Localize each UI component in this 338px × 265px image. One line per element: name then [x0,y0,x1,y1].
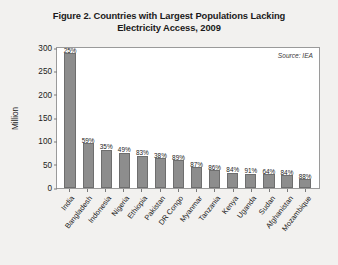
x-axis-label-slot: Tanzania [206,192,224,258]
bar[interactable]: 64% [263,174,274,188]
bar-value-label: 91% [244,167,257,174]
bar[interactable]: 35% [101,150,112,188]
bar[interactable]: 91% [245,174,256,188]
bar-value-label: 88% [299,173,312,180]
y-axis-tick-label: 150 [38,114,57,123]
bar[interactable]: 84% [281,175,292,188]
bar-value-label: 49% [118,146,131,153]
bar-slot: 59% [79,48,97,188]
bar[interactable]: 88% [299,179,310,188]
bar-slot: 35% [97,48,115,188]
bar-value-label: 38% [154,152,167,159]
x-axis-label-slot: Kenya [224,192,242,258]
y-axis-tick-label: 50 [43,160,57,169]
bar[interactable]: 49% [119,153,130,188]
bar[interactable]: 38% [155,158,166,188]
bar[interactable]: 83% [137,156,148,188]
bar[interactable]: 25% [64,53,75,188]
bar-slot: 87% [188,48,206,188]
bar-slot: 25% [61,48,79,188]
x-axis-label-slot: Uganda [242,192,260,258]
figure-title: Figure 2. Countries with Largest Populat… [14,10,324,33]
plot-area: Source: IEA 050100150200250300 25%59%35%… [56,47,320,189]
x-axis-label-slot: DR Congo [169,192,187,258]
y-axis-tick-label: 100 [38,137,57,146]
x-axis-label-slot: Bangladesh [78,192,96,258]
bar[interactable]: 86% [209,170,220,188]
bar-series: 25%59%35%49%83%38%89%87%86%84%91%64%84%8… [57,48,319,188]
y-axis-tick-label: 250 [38,67,57,76]
y-axis-title: Million [10,47,22,189]
bar-slot: 64% [260,48,278,188]
bar-value-label: 35% [100,143,113,150]
bar-value-label: 87% [190,161,203,168]
x-axis-label-slot: Nigeria [115,192,133,258]
bar-slot: 91% [242,48,260,188]
bar[interactable]: 89% [173,160,184,188]
bar-slot: 86% [206,48,224,188]
x-axis-label-slot: Indonesia [96,192,114,258]
bar-slot: 49% [115,48,133,188]
bar-slot: 88% [296,48,314,188]
bar-value-label: 83% [136,149,149,156]
bar-slot: 89% [169,48,187,188]
y-axis-tick-label: 300 [38,44,57,53]
bar-value-label: 89% [172,154,185,161]
bar-slot: 83% [133,48,151,188]
y-axis-title-text: Million [12,106,21,129]
bar-value-label: 59% [82,137,95,144]
bar-value-label: 25% [64,47,77,54]
bar-value-label: 86% [208,164,221,171]
x-axis-label-slot: Myanmar [188,192,206,258]
x-axis-label-slot: Pakistan [151,192,169,258]
figure-container: Figure 2. Countries with Largest Populat… [0,0,338,265]
bar[interactable]: 87% [191,167,202,188]
figure-title-line-1: Figure 2. Countries with Largest Populat… [53,10,285,21]
bar[interactable]: 84% [227,173,238,188]
x-axis-labels: IndiaBangladeshIndonesiaNigeriaEthiopiaP… [56,192,320,258]
figure-title-line-2: Electricity Access, 2009 [14,22,324,34]
bar-slot: 84% [278,48,296,188]
y-axis-tick-label: 200 [38,90,57,99]
bar-slot: 38% [151,48,169,188]
bar-slot: 84% [224,48,242,188]
bar-value-label: 84% [226,166,239,173]
bar[interactable]: 59% [83,143,94,188]
bar-value-label: 84% [281,169,294,176]
bar-value-label: 64% [262,168,275,175]
x-axis-label-slot: Ethiopia [133,192,151,258]
x-axis-label-slot: Mozambique [297,192,315,258]
